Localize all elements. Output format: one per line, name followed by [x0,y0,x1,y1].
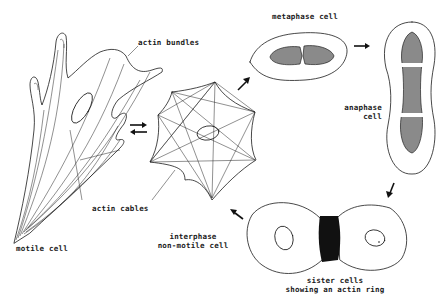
label-actin-cables: actin cables [92,204,149,213]
cell-cycle-actin-diagram: actin bundles actin cables motile cell i… [0,0,445,299]
arrow-to-anaphase-icon [354,43,370,49]
reversible-arrow-icon [130,122,147,135]
label-interphase-cell: interphase non-motile cell [148,232,238,250]
arrow-to-interphase-icon [230,209,243,219]
actin-bundles-leader [128,46,138,56]
interphase-cell-drawing [150,82,256,200]
anaphase-cell-drawing [384,22,435,174]
sister-cells-drawing [247,203,407,274]
label-motile-cell: motile cell [16,244,68,253]
metaphase-cell-drawing [250,33,347,81]
label-anaphase-cell: anaphase cell [342,103,382,121]
label-metaphase-cell: metaphase cell [272,12,338,21]
label-actin-bundles: actin bundles [138,38,199,47]
actin-cables-leader-right [152,170,175,200]
label-sister-cells: sister cells showing an actin ring [280,276,390,294]
arrow-to-metaphase-icon [238,77,250,90]
actin-cables-leader-left [70,130,82,200]
arrow-to-sister-icon [386,183,394,198]
